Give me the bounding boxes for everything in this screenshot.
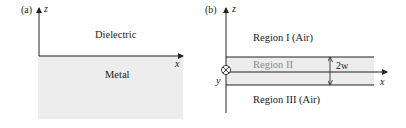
panel-a <box>38 8 183 119</box>
y-into-page-icon <box>222 66 231 75</box>
x-axis-label-b: x <box>380 76 384 87</box>
region-2-slab <box>226 57 374 85</box>
region-2-label: Region II <box>253 59 293 70</box>
z-axis-label-b: z <box>232 3 236 14</box>
dielectric-label: Dielectric <box>95 29 136 40</box>
region-3-label: Region III (Air) <box>253 94 320 105</box>
region-1-label: Region I (Air) <box>253 32 313 43</box>
metal-region <box>38 56 183 119</box>
y-axis-label: y <box>216 75 220 86</box>
x-axis-label-a: x <box>175 58 179 69</box>
panel-a-label: (a) <box>21 4 32 15</box>
z-axis-label-a: z <box>44 3 48 14</box>
panel-b-label: (b) <box>205 4 217 15</box>
thickness-label: 2w <box>336 60 348 71</box>
metal-label: Metal <box>105 69 130 80</box>
